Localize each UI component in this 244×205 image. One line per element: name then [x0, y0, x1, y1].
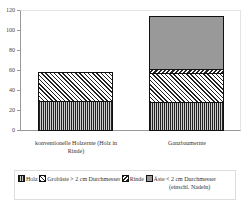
legend-label: Grobäste > 2 cm Durchmesser	[47, 176, 120, 182]
y-tick-0: 0	[0, 127, 15, 133]
legend-item-holz: Holz	[18, 176, 38, 182]
segment-grobaeste	[38, 72, 113, 102]
y-tick-120: 120	[0, 7, 15, 13]
y-tick-60: 60	[0, 67, 15, 73]
y-tick-20: 20	[0, 107, 15, 113]
x-label-konventionelle: konventionelle Holzernte (Holz in Rinde)	[20, 139, 132, 155]
rinde-swatch-icon	[122, 175, 129, 182]
legend-item-grobaeste: Grobäste > 2 cm Durchmesser	[39, 176, 120, 182]
x-label-line: Ganzbaumernte	[140, 139, 234, 147]
legend-label: Rinde	[130, 176, 144, 182]
legend-item-rinde: Rinde	[122, 176, 144, 182]
x-label-ganzbaumernte: Ganzbaumernte	[140, 139, 234, 147]
aeste-swatch-icon	[146, 175, 153, 182]
y-tick-40: 40	[0, 87, 15, 93]
legend: Holz Grobäste > 2 cm Durchmesser Rinde Ä…	[14, 170, 236, 200]
x-label-line: Rinde)	[20, 147, 132, 155]
legend-label: Äste < 2 cm Durchmesser	[154, 176, 216, 182]
segment-aeste	[149, 16, 224, 70]
y-tick-100: 100	[0, 27, 15, 33]
grobaeste-swatch-icon	[39, 175, 46, 182]
legend-item-aeste: Äste < 2 cm Durchmesser	[146, 176, 216, 182]
holz-swatch-icon	[18, 175, 25, 182]
y-tick-80: 80	[0, 47, 15, 53]
legend-label-continued: (einschl. Nadeln)	[18, 183, 232, 191]
segment-holz	[38, 101, 113, 131]
legend-label: Holz	[26, 176, 38, 182]
segment-grobaeste	[149, 73, 224, 103]
bar-konventionelle-holzernte	[38, 72, 113, 131]
bar-ganzbaumernte	[149, 16, 224, 131]
segment-holz	[149, 102, 224, 131]
x-label-line: konventionelle Holzernte (Holz in	[20, 139, 132, 147]
